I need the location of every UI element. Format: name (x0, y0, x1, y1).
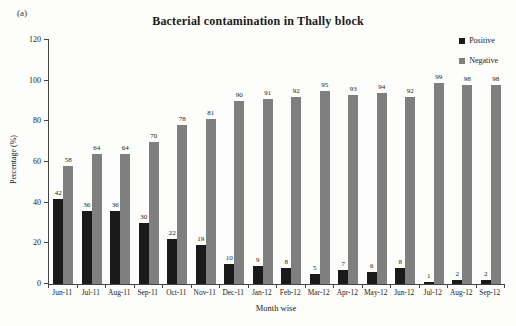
bar-wrap: 36 (82, 40, 92, 284)
x-tick-label: Jun-12 (390, 288, 419, 297)
x-axis-label: Month wise (48, 303, 504, 313)
bar-negative (263, 99, 273, 284)
bar-wrap: 90 (234, 40, 244, 284)
bar-wrap: 36 (110, 40, 120, 284)
bar-value-label: 95 (321, 82, 328, 89)
bar-positive (395, 268, 405, 284)
bar-value-label: 36 (83, 202, 90, 209)
bar-wrap: 70 (149, 40, 159, 284)
bar-value-label: 36 (112, 202, 119, 209)
bar-value-label: 1 (427, 273, 431, 280)
bar-group-Jul-12: 199 (420, 40, 449, 284)
bar-value-label: 78 (179, 116, 186, 123)
bar-positive (196, 245, 206, 284)
bar-positive (424, 282, 434, 284)
bar-positive (367, 272, 377, 284)
bar-wrap: 10 (224, 40, 234, 284)
bar-wrap: 7 (338, 40, 348, 284)
bar-wrap: 95 (320, 40, 330, 284)
bar-positive (253, 266, 263, 284)
bar-group-Aug-11: 3664 (106, 40, 135, 284)
bar-value-label: 90 (236, 92, 243, 99)
bar-positive (281, 268, 291, 284)
bar-positive (224, 264, 234, 284)
bar-negative (377, 93, 387, 284)
x-axis-tick-labels: Jun-11Jul-11Aug-11Sep-11Oct-11Nov-11Dec-… (48, 288, 504, 297)
bar-negative (234, 101, 244, 284)
bar-value-label: 94 (378, 84, 385, 91)
bar-positive (452, 280, 462, 284)
x-tick-label: May-12 (362, 288, 391, 297)
bar-value-label: 5 (313, 265, 317, 272)
bar-wrap: 30 (139, 40, 149, 284)
bar-wrap: 22 (167, 40, 177, 284)
bar-wrap: 8 (281, 40, 291, 284)
x-tick-label: Mar-12 (305, 288, 334, 297)
x-tick-label: Apr-12 (333, 288, 362, 297)
bar-value-label: 19 (197, 236, 204, 243)
bar-value-label: 98 (492, 76, 499, 83)
bar-positive (53, 199, 63, 284)
y-tick-label: 120 (29, 36, 41, 44)
bar-wrap: 99 (434, 40, 444, 284)
y-tick-label: 40 (33, 199, 41, 207)
bar-wrap: 91 (263, 40, 273, 284)
x-tick-label: Sep-12 (476, 288, 505, 297)
x-axis-tick (504, 284, 505, 288)
bar-wrap: 98 (462, 40, 472, 284)
bar-negative (462, 85, 472, 284)
y-tick-label: 100 (29, 77, 41, 85)
bar-wrap: 64 (120, 40, 130, 284)
bar-group-Apr-12: 793 (334, 40, 363, 284)
bar-value-label: 93 (350, 86, 357, 93)
bar-value-label: 9 (256, 257, 260, 264)
bar-group-Jan-12: 991 (249, 40, 278, 284)
bar-value-label: 58 (65, 157, 72, 164)
bar-value-label: 8 (399, 259, 403, 266)
bar-wrap: 98 (491, 40, 501, 284)
x-tick-label: Dec-11 (219, 288, 248, 297)
bar-positive (338, 270, 348, 284)
bar-wrap: 94 (377, 40, 387, 284)
bar-group-May-12: 694 (363, 40, 392, 284)
bar-negative (63, 166, 73, 284)
bar-value-label: 2 (456, 271, 460, 278)
bar-negative (348, 95, 358, 284)
bar-wrap: 9 (253, 40, 263, 284)
bar-value-label: 70 (150, 133, 157, 140)
x-tick-label: Aug-11 (105, 288, 134, 297)
bar-wrap: 58 (63, 40, 73, 284)
x-tick-label: Sep-11 (134, 288, 163, 297)
bar-value-label: 10 (226, 255, 233, 262)
bar-value-label: 6 (370, 263, 374, 270)
x-tick-label: Jul-12 (419, 288, 448, 297)
bar-group-Jun-11: 4258 (49, 40, 78, 284)
bar-value-label: 30 (140, 214, 147, 221)
bar-wrap: 92 (291, 40, 301, 284)
bar-positive (310, 274, 320, 284)
bar-value-label: 98 (464, 76, 471, 83)
bar-negative (149, 142, 159, 284)
bar-positive (139, 223, 149, 284)
x-tick-label: Feb-12 (276, 288, 305, 297)
bar-wrap: 19 (196, 40, 206, 284)
bar-negative (491, 85, 501, 284)
bar-group-Dec-11: 1090 (220, 40, 249, 284)
bar-group-Sep-11: 3070 (135, 40, 164, 284)
bar-wrap: 92 (405, 40, 415, 284)
bar-negative (320, 91, 330, 284)
bar-positive (167, 239, 177, 284)
x-tick-label: Aug-12 (447, 288, 476, 297)
y-tick-label: 0 (37, 280, 41, 288)
bar-value-label: 92 (293, 88, 300, 95)
bar-group-Jun-12: 892 (391, 40, 420, 284)
bar-negative (434, 83, 444, 284)
bar-positive (110, 211, 120, 284)
bar-chart-figure: (a) Bacterial contamination in Thally bl… (0, 0, 516, 326)
bar-value-label: 42 (55, 190, 62, 197)
bar-negative (206, 119, 216, 284)
bar-wrap: 93 (348, 40, 358, 284)
bar-value-label: 99 (435, 74, 442, 81)
bar-negative (120, 154, 130, 284)
bar-wrap: 81 (206, 40, 216, 284)
